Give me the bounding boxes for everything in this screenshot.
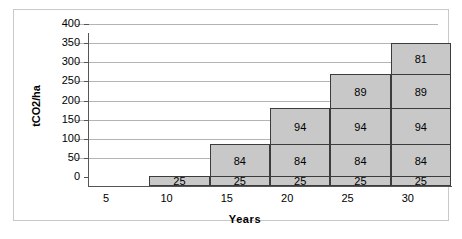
bar-segment-label: 94: [415, 121, 427, 133]
bar-30[interactable]: 2584948981: [391, 43, 451, 186]
bar-segment-label: 25: [173, 176, 185, 186]
bar-segment-label: 84: [415, 155, 427, 167]
bar-segment[interactable]: 89: [330, 74, 390, 108]
bar-segment-label: 89: [415, 86, 427, 98]
x-axis-title: Years: [14, 213, 462, 225]
x-axis-line: [88, 186, 452, 187]
x-axis-tick-label: 5: [76, 192, 136, 204]
bar-segment-label: 81: [415, 53, 427, 65]
bar-segment-label: 84: [234, 155, 246, 167]
bar-segment[interactable]: 25: [210, 176, 270, 186]
bar-segment[interactable]: 25: [270, 176, 330, 186]
bar-segment[interactable]: 25: [149, 176, 209, 186]
gridline: [76, 24, 438, 25]
bar-segment[interactable]: 84: [391, 144, 451, 176]
y-axis-tick: [84, 24, 89, 25]
bar-segment[interactable]: 84: [270, 144, 330, 176]
bar-segment[interactable]: 84: [210, 144, 270, 176]
bar-segment-label: 89: [354, 86, 366, 98]
y-axis-tick-label: 300: [44, 55, 80, 67]
x-axis-tick-label: 15: [197, 192, 257, 204]
bar-10[interactable]: 25: [149, 176, 209, 186]
bar-25[interactable]: 25849489: [330, 74, 390, 186]
x-axis-tick-label: 30: [378, 192, 438, 204]
y-axis-title: tCO2/ha: [30, 66, 44, 146]
bar-segment[interactable]: 25: [330, 176, 390, 186]
bar-series: 252584258494258494892584948981: [89, 33, 451, 186]
bar-15[interactable]: 2584: [210, 144, 270, 186]
y-axis-tick-label: 0: [44, 170, 80, 182]
bar-segment[interactable]: 94: [391, 108, 451, 144]
plot-area: 252584258494258494892584948981: [89, 33, 451, 186]
y-axis-tick-label: 250: [44, 74, 80, 86]
x-axis-tick-label: 25: [318, 192, 378, 204]
x-axis-tick-label: 10: [137, 192, 197, 204]
bar-segment-label: 25: [234, 176, 246, 186]
y-axis-tick-label: 100: [44, 132, 80, 144]
x-axis-tick-label: 20: [257, 192, 317, 204]
bar-segment-label: 84: [294, 155, 306, 167]
bar-segment-label: 84: [354, 155, 366, 167]
bar-segment[interactable]: 94: [270, 108, 330, 144]
y-axis-tick-label: 200: [44, 94, 80, 106]
bar-segment-label: 94: [294, 121, 306, 133]
bar-segment[interactable]: 25: [391, 176, 451, 186]
y-axis-tick-label: 350: [44, 36, 80, 48]
bar-segment[interactable]: 81: [391, 43, 451, 74]
bar-segment-label: 25: [354, 176, 366, 186]
bar-20[interactable]: 258494: [270, 108, 330, 186]
y-axis-tick-label: 150: [44, 113, 80, 125]
bar-segment[interactable]: 94: [330, 108, 390, 144]
y-axis-tick-label: 400: [44, 17, 80, 29]
chart-frame: 050100150200250300350400 tCO2/ha 2525842…: [13, 9, 449, 221]
bar-segment-label: 25: [415, 176, 427, 186]
bar-segment[interactable]: 84: [330, 144, 390, 176]
y-axis-tick-label: 50: [44, 151, 80, 163]
bar-segment-label: 25: [294, 176, 306, 186]
bar-segment-label: 94: [354, 121, 366, 133]
bar-segment[interactable]: 89: [391, 74, 451, 108]
